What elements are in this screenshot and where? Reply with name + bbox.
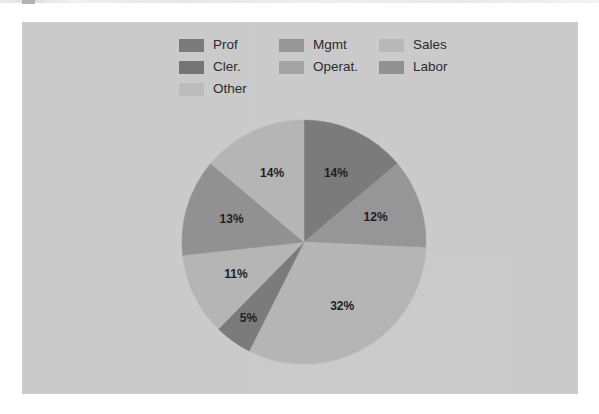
pie-slice-label-operat: 11% [224, 267, 248, 281]
legend-swatch-labor [379, 61, 404, 74]
pie-chart-svg: 14%12%32%5%11%13%14% [180, 118, 428, 366]
pie-chart-panel: Prof Mgmt Sales Cler. Operat. Labor [22, 22, 578, 394]
legend-label-labor: Labor [413, 60, 448, 74]
legend-item-prof[interactable]: Prof [179, 34, 279, 56]
pie-slice-label-other: 14% [260, 166, 284, 180]
legend-item-other[interactable]: Other [179, 78, 279, 100]
chart-legend: Prof Mgmt Sales Cler. Operat. Labor [179, 34, 499, 100]
legend-label-cler: Cler. [213, 60, 241, 74]
pie-slice-label-prof: 14% [324, 166, 348, 180]
legend-swatch-mgmt [279, 39, 304, 52]
legend-item-labor[interactable]: Labor [379, 56, 479, 78]
legend-item-mgmt[interactable]: Mgmt [279, 34, 379, 56]
legend-swatch-operat [279, 61, 304, 74]
pie-slice-label-cler: 5% [240, 311, 258, 325]
legend-label-sales: Sales [413, 38, 447, 52]
legend-item-operat[interactable]: Operat. [279, 56, 379, 78]
scan-artifact-mark [22, 0, 35, 4]
screenshot-root: Prof Mgmt Sales Cler. Operat. Labor [0, 0, 599, 414]
legend-label-mgmt: Mgmt [313, 38, 347, 52]
legend-label-operat: Operat. [313, 60, 358, 74]
legend-swatch-other [179, 83, 204, 96]
legend-swatch-sales [379, 39, 404, 52]
legend-label-prof: Prof [213, 38, 238, 52]
legend-item-sales[interactable]: Sales [379, 34, 479, 56]
legend-item-cler[interactable]: Cler. [179, 56, 279, 78]
pie-slice-label-labor: 13% [220, 212, 244, 226]
pie-slice-label-mgmt: 12% [364, 210, 388, 224]
pie-slice-group [182, 120, 426, 364]
scan-artifact-strip [0, 0, 599, 3]
legend-label-other: Other [213, 82, 247, 96]
legend-swatch-prof [179, 39, 204, 52]
legend-swatch-cler [179, 61, 204, 74]
pie-slice-label-sales: 32% [330, 299, 354, 313]
pie-chart: 14%12%32%5%11%13%14% [180, 118, 428, 366]
